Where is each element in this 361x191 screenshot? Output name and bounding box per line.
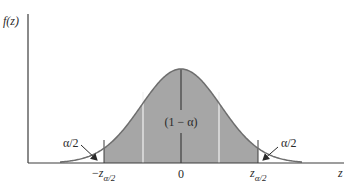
x-axis-label: z (337, 166, 343, 180)
tick-neg-sub: α/2 (103, 173, 115, 183)
tick-pos-sub: α/2 (255, 173, 267, 183)
y-axis-label-arg: (z) (6, 14, 19, 28)
tick-label-neg-z: −zα/2 (92, 166, 116, 183)
center-area-label: (1 − α) (164, 115, 197, 129)
tick-label-pos-z: zα/2 (249, 166, 267, 183)
normal-distribution-diagram: f(z) z (1 − α) 0 −zα/2 zα/2 α/2 α/2 (0, 0, 361, 191)
left-tail-label: α/2 (63, 136, 79, 150)
tick-label-zero: 0 (178, 167, 184, 181)
right-tail-label: α/2 (281, 136, 297, 150)
y-axis-label: f(z) (3, 14, 19, 28)
